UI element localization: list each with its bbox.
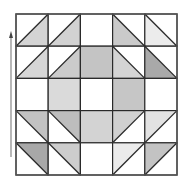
quilt-cell [145,111,177,143]
quilt-cell [48,78,80,110]
quilt-cell [48,46,80,78]
quilt-cell [145,78,177,110]
quilt-cell [48,143,80,175]
quilt-cell [16,111,48,143]
up-arrow-icon [9,31,13,157]
quilt-cell [113,111,145,143]
quilt-cell [16,78,48,110]
quilt-cell [16,46,48,78]
quilt-cell [80,111,112,143]
quilt-cell [113,143,145,175]
quilt-diagram [0,0,185,186]
quilt-cell [145,46,177,78]
quilt-cell [145,14,177,46]
quilt-cell [80,143,112,175]
quilt-cell [48,111,80,143]
quilt-cell [80,78,112,110]
quilt-cell [16,14,48,46]
quilt-cell [16,143,48,175]
quilt-cell [113,46,145,78]
quilt-cell [113,14,145,46]
quilt-cell [113,78,145,110]
quilt-cells [16,14,177,175]
quilt-cell [80,46,112,78]
quilt-cell [48,14,80,46]
quilt-cell [145,143,177,175]
quilt-block-figure [0,0,185,186]
quilt-cell [80,14,112,46]
